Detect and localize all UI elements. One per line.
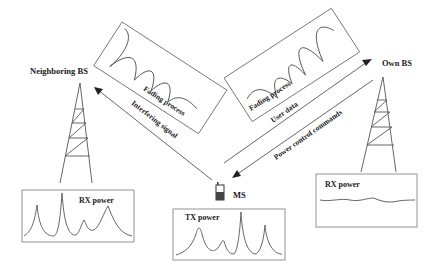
own-rx-power-label: RX power <box>325 180 360 189</box>
own-bs-label: Own BS <box>382 58 412 68</box>
ms-label: MS <box>233 190 246 200</box>
own-bs-tower-icon <box>361 77 396 172</box>
neighboring-bs-label: Neighboring BS <box>30 66 88 76</box>
diagram-canvas: Neighboring BS Own BS MS Interfering sig… <box>0 0 439 277</box>
neighbor-rx-power-box <box>22 190 134 242</box>
neighboring-bs-tower-icon <box>60 83 92 183</box>
ms-tx-power-label: TX power <box>185 213 220 222</box>
neighbor-rx-power-label: RX power <box>79 196 114 205</box>
mobile-station-icon <box>216 182 224 200</box>
